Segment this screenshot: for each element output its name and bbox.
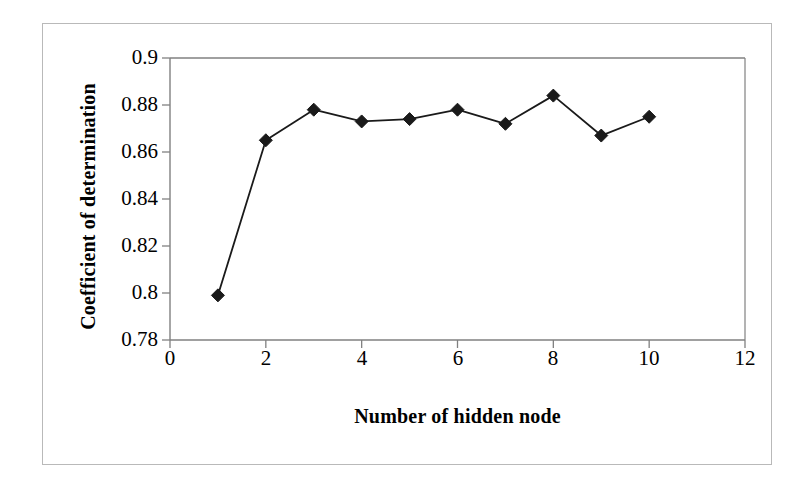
axes bbox=[170, 58, 745, 340]
data-point-marker: 4, 0.873 bbox=[355, 115, 368, 128]
axis-ticks bbox=[162, 58, 745, 348]
data-point-marker: 10, 0.875 bbox=[643, 110, 656, 123]
plot-area: 1, 0.7992, 0.8653, 0.8784, 0.8735, 0.874… bbox=[0, 0, 810, 489]
series-line bbox=[218, 96, 649, 296]
data-point-marker: 6, 0.878 bbox=[451, 103, 464, 116]
line-chart: Coefficient of determination 0.9 0.88 0.… bbox=[0, 0, 810, 489]
data-point-marker: 5, 0.874 bbox=[403, 113, 416, 126]
data-point-marker: 2, 0.865 bbox=[259, 134, 272, 147]
data-point-marker: 1, 0.799 bbox=[211, 289, 224, 302]
data-series: 1, 0.7992, 0.8653, 0.8784, 0.8735, 0.874… bbox=[211, 89, 655, 302]
data-point-marker: 3, 0.878 bbox=[307, 103, 320, 116]
data-point-marker: 7, 0.872 bbox=[499, 117, 512, 130]
